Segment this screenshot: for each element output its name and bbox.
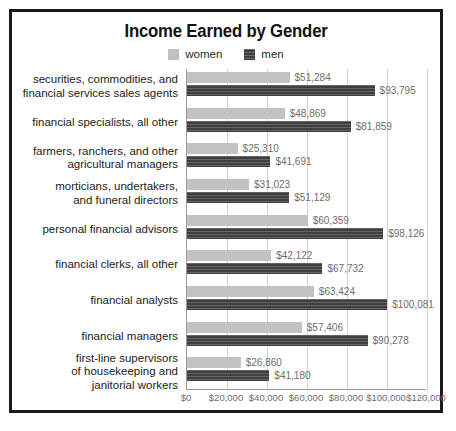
bar-women[interactable] — [187, 72, 290, 83]
bar-row-men: $81,859 — [187, 121, 392, 132]
legend-swatch-men-icon — [244, 49, 255, 60]
x-tick-label: $60,000 — [289, 392, 323, 403]
bar-row-men: $41,691 — [187, 156, 312, 167]
bar-group: $31,023$51,129 — [187, 176, 426, 212]
legend-entry-women: women — [168, 48, 222, 60]
bar-value-label: $25,310 — [243, 143, 279, 154]
chart-legend: women men — [12, 48, 440, 60]
bar-women[interactable] — [187, 357, 241, 368]
bar-row-men: $100,081 — [187, 299, 434, 310]
legend-label-women: women — [185, 48, 222, 60]
bar-women[interactable] — [187, 250, 271, 261]
chart-frame: Income Earned by Gender women men securi… — [9, 9, 443, 413]
plot-area: $51,284$93,795$48,869$81,859$25,310$41,6… — [186, 69, 426, 390]
bar-group: $42,122$67,732 — [187, 247, 426, 283]
bar-value-label: $57,406 — [307, 322, 343, 333]
x-axis-tick-labels: $0$20,000$40,000$60,000$80,000$100,000$1… — [186, 392, 426, 408]
bar-row-women: $26,860 — [187, 357, 282, 368]
bar-value-label: $100,081 — [392, 299, 434, 310]
bar-row-women: $63,424 — [187, 286, 355, 297]
chart-title: Income Earned by Gender — [27, 21, 425, 42]
x-tick-label: $0 — [181, 392, 192, 403]
bar-men[interactable] — [187, 370, 269, 381]
category-label: financial clerks, all other — [16, 247, 178, 283]
bar-value-label: $41,180 — [274, 370, 310, 381]
bar-group: $63,424$100,081 — [187, 283, 426, 319]
bar-women[interactable] — [187, 322, 302, 333]
bar-value-label: $67,732 — [327, 263, 363, 274]
bar-men[interactable] — [187, 299, 387, 310]
bar-row-men: $93,795 — [187, 85, 416, 96]
bar-women[interactable] — [187, 108, 285, 119]
bar-row-women: $57,406 — [187, 322, 343, 333]
bar-men[interactable] — [187, 192, 289, 203]
x-tick-label: $40,000 — [249, 392, 283, 403]
bar-value-label: $81,859 — [356, 121, 392, 132]
bar-men[interactable] — [187, 85, 375, 96]
bar-men[interactable] — [187, 228, 383, 239]
bar-women[interactable] — [187, 143, 238, 154]
legend-entry-men: men — [244, 48, 283, 60]
bar-value-label: $41,691 — [275, 156, 311, 167]
bar-group: $60,359$98,126 — [187, 212, 426, 248]
bar-women[interactable] — [187, 215, 308, 226]
bar-group: $48,869$81,859 — [187, 105, 426, 141]
bar-value-label: $26,860 — [246, 357, 282, 368]
category-label: farmers, ranchers, and otheragricultural… — [16, 140, 178, 176]
bar-value-label: $90,278 — [373, 335, 409, 346]
bar-women[interactable] — [187, 179, 249, 190]
bar-group: $26,860$41,180 — [187, 354, 426, 390]
bar-row-men: $67,732 — [187, 263, 364, 274]
bar-women[interactable] — [187, 286, 314, 297]
bar-men[interactable] — [187, 335, 368, 346]
bar-groups: $51,284$93,795$48,869$81,859$25,310$41,6… — [187, 69, 426, 390]
bar-value-label: $93,795 — [380, 85, 416, 96]
category-label: financial specialists, all other — [16, 105, 178, 141]
bar-row-men: $98,126 — [187, 228, 424, 239]
bar-group: $25,310$41,691 — [187, 140, 426, 176]
bar-row-women: $51,284 — [187, 72, 331, 83]
bar-value-label: $31,023 — [254, 179, 290, 190]
bar-men[interactable] — [187, 121, 351, 132]
category-label: personal financial advisors — [16, 212, 178, 248]
legend-label-men: men — [261, 48, 283, 60]
bar-value-label: $51,129 — [294, 192, 330, 203]
bar-row-women: $42,122 — [187, 250, 312, 261]
category-label: morticians, undertakers,and funeral dire… — [16, 176, 178, 212]
x-tick-label: $20,000 — [209, 392, 243, 403]
bar-value-label: $63,424 — [319, 286, 355, 297]
bar-row-women: $25,310 — [187, 143, 279, 154]
category-label: securities, commodities, andfinancial se… — [16, 69, 178, 105]
category-label: first-line supervisorsof housekeeping an… — [16, 354, 178, 390]
bar-value-label: $98,126 — [388, 228, 424, 239]
bar-men[interactable] — [187, 263, 322, 274]
category-label: financial managers — [16, 319, 178, 355]
bar-value-label: $51,284 — [295, 72, 331, 83]
bar-row-women: $31,023 — [187, 179, 290, 190]
bar-men[interactable] — [187, 156, 270, 167]
x-tick-label: $100,000 — [366, 392, 406, 403]
x-tick-label: $120,000 — [406, 392, 446, 403]
bar-value-label: $42,122 — [276, 250, 312, 261]
gridline — [427, 69, 428, 390]
bar-value-label: $48,869 — [290, 108, 326, 119]
bar-value-label: $60,359 — [313, 215, 349, 226]
bar-group: $51,284$93,795 — [187, 69, 426, 105]
bar-row-men: $41,180 — [187, 370, 311, 381]
legend-swatch-women-icon — [168, 49, 179, 60]
bar-row-women: $48,869 — [187, 108, 326, 119]
category-axis-labels: securities, commodities, andfinancial se… — [20, 69, 182, 390]
x-tick-label: $80,000 — [329, 392, 363, 403]
bar-row-men: $90,278 — [187, 335, 409, 346]
bar-row-women: $60,359 — [187, 215, 349, 226]
bar-group: $57,406$90,278 — [187, 319, 426, 355]
category-label: financial analysts — [16, 283, 178, 319]
bar-row-men: $51,129 — [187, 192, 330, 203]
